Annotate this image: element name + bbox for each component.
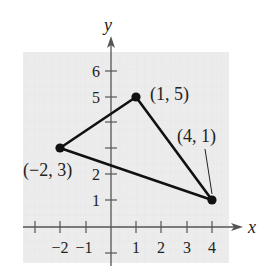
grid (23, 52, 229, 263)
y-axis-label: y (102, 15, 112, 35)
x-tick-label: 4 (208, 239, 216, 256)
x-axis-label: x (247, 217, 256, 237)
y-tick-label: 5 (92, 89, 100, 106)
y-tick-label: 2 (92, 166, 100, 183)
point-label: (4, 1) (177, 126, 216, 147)
point-label: (−2, 3) (23, 160, 72, 181)
point-marker (131, 92, 140, 101)
y-tick-label: 6 (92, 63, 100, 80)
x-tick-label: −1 (75, 239, 92, 256)
x-tick-label: 1 (132, 239, 140, 256)
x-tick-label: 2 (157, 239, 165, 256)
point-label: (1, 5) (150, 84, 189, 105)
point-marker (55, 143, 64, 152)
x-tick-label: 3 (183, 239, 191, 256)
y-tick-label: 1 (92, 192, 100, 209)
coordinate-plot: −2 −1 1 2 3 4 1 2 5 6 x y (1, 5) (−2, 3)… (0, 0, 271, 272)
point-marker (207, 195, 216, 204)
x-tick-label: −2 (51, 239, 68, 256)
